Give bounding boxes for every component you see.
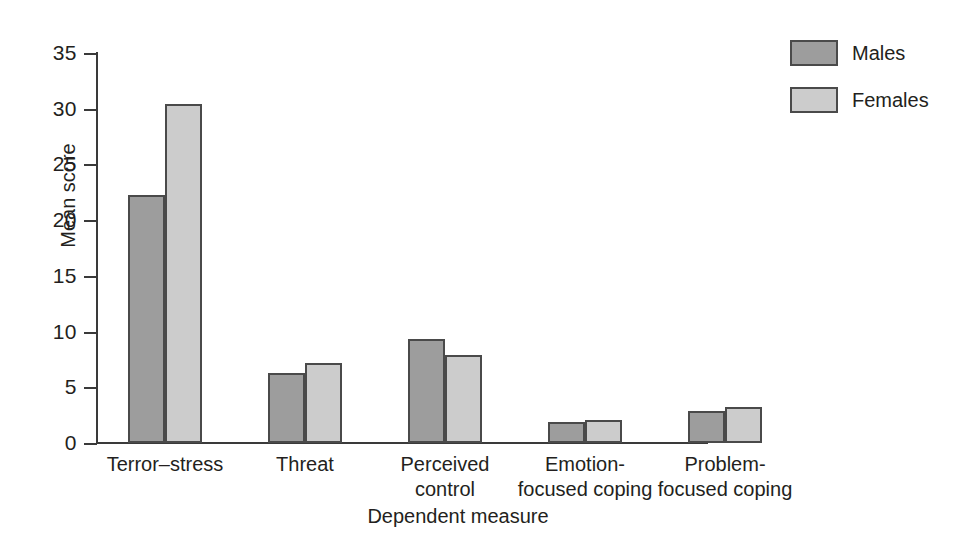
category-label-4: Problem- focused coping <box>640 452 810 502</box>
females-swatch-icon <box>790 87 838 113</box>
bar-males-2 <box>408 339 445 443</box>
y-tick-label: 0 <box>31 432 77 453</box>
legend-label-females: Females <box>852 89 929 112</box>
y-axis-title: Mean score <box>57 126 80 266</box>
bar-females-2 <box>445 355 482 443</box>
y-tick-label: 5 <box>31 376 77 397</box>
bar-females-0 <box>165 104 202 443</box>
legend-label-males: Males <box>852 42 905 65</box>
bar-females-1 <box>305 363 342 443</box>
legend: Males Females <box>790 40 929 134</box>
legend-entry-males: Males <box>790 40 929 66</box>
y-tick-label: 30 <box>31 98 77 119</box>
bar-chart-figure: 05101520253035 Mean score Terror–stressT… <box>0 0 954 553</box>
bar-males-3 <box>548 422 585 443</box>
y-tick-mark <box>84 443 97 445</box>
plot-area <box>96 53 704 443</box>
bar-females-4 <box>725 407 762 443</box>
bar-males-1 <box>268 373 305 443</box>
males-swatch-icon <box>790 40 838 66</box>
x-axis-title: Dependent measure <box>248 505 668 528</box>
bar-males-4 <box>688 411 725 443</box>
legend-entry-females: Females <box>790 87 929 113</box>
bar-females-3 <box>585 420 622 443</box>
bar-males-0 <box>128 195 165 443</box>
y-tick-label: 35 <box>31 42 77 63</box>
y-tick-label: 15 <box>31 265 77 286</box>
y-tick-label: 10 <box>31 321 77 342</box>
